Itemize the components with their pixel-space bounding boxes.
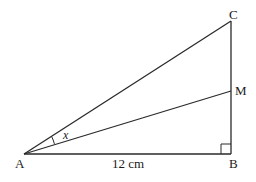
segment-ac: [24, 21, 231, 154]
label-m: M: [235, 83, 247, 98]
triangle-diagram: C M A B 12 cm x: [0, 0, 256, 182]
right-angle-marker: [221, 144, 231, 154]
label-a: A: [15, 156, 25, 171]
angle-arc-x: [52, 136, 55, 144]
label-c: C: [229, 7, 238, 22]
label-angle-x: x: [62, 128, 69, 142]
segment-am: [24, 91, 231, 154]
label-b: B: [229, 156, 238, 171]
label-ab-length: 12 cm: [112, 156, 144, 171]
